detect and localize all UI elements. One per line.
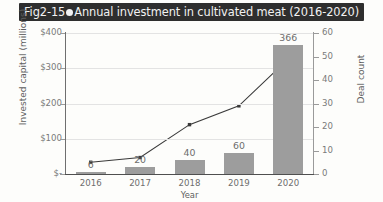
y-axis-left-tick-mark [60,174,65,175]
y-axis-right-tick-mark [314,57,319,58]
y-axis-right-tick-label: 0 [322,168,327,178]
y-axis-left-title: Invested capital (millions) [18,3,28,131]
y-axis-right-tick-mark [314,33,319,34]
x-axis-tick-label: 2016 [66,178,116,188]
y-axis-left-tick-mark [60,139,65,140]
y-axis-left-tick-label: $200 [40,98,62,108]
y-axis-right-tick-label: 30 [322,98,333,108]
bar [76,172,106,174]
x-axis-line [65,174,314,175]
bar [175,160,205,174]
chart-title-text: Annual investment in cultivated meat (20… [74,5,359,19]
y-axis-right-tick-label: 50 [322,51,333,61]
bar [273,45,303,174]
line-marker [188,123,191,126]
y-axis-left-tick-label: $100 [40,133,62,143]
x-axis-tick-label: 2019 [214,178,264,188]
y-axis-right-tick-mark [314,104,319,105]
y-axis-right-tick-label: 60 [322,27,333,37]
bullet-dot-icon [66,9,73,16]
y-axis-right-tick-mark [314,127,319,128]
chart-figure: Fig2-15Annual investment in cultivated m… [0,0,383,202]
chart-title: Fig2-15Annual investment in cultivated m… [24,5,359,19]
bar [125,167,155,174]
bar-value-label: 40 [165,147,215,158]
y-axis-left-tick-label: $400 [40,27,62,37]
bar-value-label: 60 [214,140,264,151]
y-axis-left-tick-label: $300 [40,62,62,72]
y-axis-right-tick-label: 10 [322,145,333,155]
bar-value-label: 6 [66,159,116,170]
y-axis-right-tick-mark [314,151,319,152]
y-axis-right-labels: 0102030405060 [322,0,350,202]
y-axis-right-tick-mark [314,80,319,81]
y-axis-right-tick-mark [314,174,319,175]
bar-value-label: 366 [263,32,313,43]
x-axis-tick-label: 2018 [165,178,215,188]
y-axis-left-tick-mark [60,104,65,105]
bar [224,153,254,174]
y-axis-right-title: Deal count [356,15,366,143]
x-axis-tick-label: 2017 [115,178,165,188]
y-axis-left-tick-mark [60,68,65,69]
x-axis-title: Year [66,190,313,200]
line-marker [237,104,240,107]
y-axis-left-tick-label: $- [53,168,62,178]
y-axis-left-tick-mark [60,33,65,34]
y-axis-right-tick-label: 40 [322,74,333,84]
chart-title-bar: Fig2-15Annual investment in cultivated m… [19,3,364,21]
bar-value-label: 20 [115,154,165,165]
x-axis-tick-label: 2020 [263,178,313,188]
y-axis-right-tick-label: 20 [322,121,333,131]
